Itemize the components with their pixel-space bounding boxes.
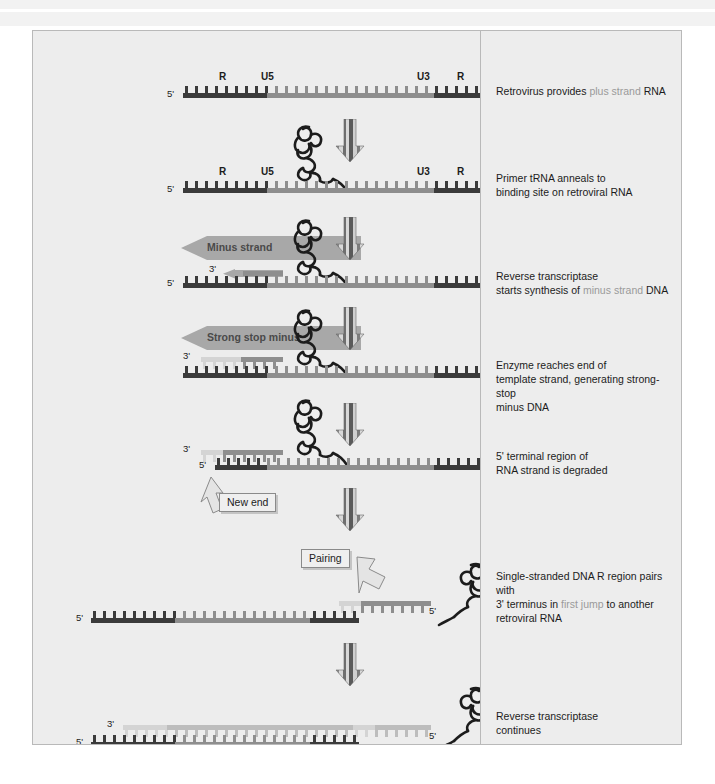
region-label-R-right-2: R	[457, 167, 464, 177]
caption-step6-line2-post: to another	[604, 598, 654, 610]
caption-step6-line3: retroviral RNA	[496, 611, 673, 625]
strand-ticks-row4	[183, 366, 480, 373]
caption-step6-highlight: first jump	[561, 598, 604, 610]
region-label-R-left-1: R	[219, 72, 226, 82]
caption-step4-line3: minus DNA	[496, 400, 673, 414]
caption-column: Retrovirus provides plus strand RNA Prim…	[480, 31, 681, 744]
caption-step1: Retrovirus provides plus strand RNA	[496, 84, 673, 98]
trna-icon-row7	[431, 683, 480, 744]
strand-ticks-row2	[183, 181, 480, 188]
caption-step7: Reverse transcriptase continues	[496, 709, 673, 737]
caption-step3-line2: starts synthesis of minus strand DNA	[496, 283, 673, 297]
five-prime-label-row2: 5'	[167, 184, 174, 194]
new-end-callout-label: New end	[219, 493, 276, 512]
caption-step3-line2-pre: starts synthesis of	[496, 284, 583, 296]
caption-step4-line1: Enzyme reaches end of	[496, 358, 673, 372]
caption-step6-line1: Single-stranded DNA R region pairs with	[496, 569, 673, 597]
caption-step1-highlight: plus strand	[589, 85, 640, 97]
caption-step2: Primer tRNA anneals to binding site on r…	[496, 171, 673, 199]
caption-step6-line2: 3' terminus in first jump to another	[496, 597, 673, 611]
caption-step1-post: RNA	[641, 85, 666, 97]
strand-rna-row1	[183, 93, 480, 98]
scan-artifact-top	[0, 0, 715, 9]
diagram-area: R U5 U3 R 5' 3'	[33, 31, 480, 744]
five-prime-label-row7b: 5'	[76, 737, 83, 744]
three-prime-label-strongstop-row4: 3'	[183, 351, 190, 361]
strand-rna-row4	[183, 373, 480, 378]
caption-step5-line1: 5' terminal region of	[496, 449, 673, 463]
strand-ticks-row1	[183, 86, 480, 93]
minus-strand-banner-label: Minus strand	[207, 241, 272, 253]
strand-rna-row7	[91, 742, 359, 744]
caption-step6-line2-pre: 3' terminus in	[496, 598, 561, 610]
scan-artifact-second	[0, 12, 715, 26]
caption-step2-line1: Primer tRNA anneals to	[496, 171, 673, 185]
strand-ticks-row7	[91, 735, 359, 742]
caption-step7-line1: Reverse transcriptase	[496, 709, 673, 723]
process-arrow-4	[335, 403, 365, 447]
caption-step7-line2: continues	[496, 723, 673, 737]
five-prime-label-row1: 5'	[167, 89, 174, 99]
region-label-U5-2: U5	[261, 167, 274, 177]
strand-rna-row3	[183, 283, 480, 288]
three-prime-label-row7: 3'	[107, 719, 114, 729]
process-arrow-2	[335, 217, 365, 261]
process-arrow-5	[335, 488, 365, 532]
region-label-R-left-2: R	[219, 167, 226, 177]
strand-rna-row2	[183, 188, 480, 193]
strand-dna-strongstop-row6	[339, 601, 431, 606]
region-label-R-right-1: R	[457, 72, 464, 82]
strand-ticks-row5	[215, 458, 480, 465]
five-prime-label-row6: 5'	[76, 613, 83, 623]
pairing-callout-label: Pairing	[301, 549, 350, 568]
caption-step4: Enzyme reaches end of template strand, g…	[496, 358, 673, 414]
caption-step3-line2-post: DNA	[643, 284, 668, 296]
caption-step3-line1: Reverse transcriptase	[496, 269, 673, 283]
strand-rna-new-row6	[91, 618, 359, 623]
region-label-U5-1: U5	[261, 72, 274, 82]
caption-step2-line2: binding site on retroviral RNA	[496, 185, 673, 199]
strand-dna-strongstop-row4	[201, 357, 283, 362]
strand-dna-strongstop-row5	[201, 450, 283, 455]
caption-step5-line2: RNA strand is degraded	[496, 463, 673, 477]
process-arrow-3	[335, 307, 365, 351]
strand-ticks-row3	[183, 276, 480, 283]
five-prime-label-row5: 5'	[199, 460, 206, 470]
strand-rna-row5	[215, 465, 480, 470]
caption-step6: Single-stranded DNA R region pairs with …	[496, 569, 673, 625]
caption-step3: Reverse transcriptase starts synthesis o…	[496, 269, 673, 297]
caption-step1-pre: Retrovirus provides	[496, 85, 589, 97]
caption-step5: 5' terminal region of RNA strand is degr…	[496, 449, 673, 477]
three-prime-label-strongstop-row5: 3'	[183, 444, 190, 454]
strand-dna-minus-row7	[123, 725, 431, 730]
region-label-U3-1: U3	[417, 72, 430, 82]
three-prime-label-nascent-row3: 3'	[209, 264, 216, 274]
trna-icon-row6	[431, 559, 480, 635]
region-label-U3-2: U3	[417, 167, 430, 177]
five-prime-label-row3: 5'	[167, 278, 174, 288]
strand-ticks-row6	[91, 611, 359, 618]
caption-step3-highlight: minus strand	[583, 284, 643, 296]
process-arrow-6	[335, 643, 365, 687]
caption-step4-line2: template strand, generating strong-stop	[496, 372, 673, 400]
figure-panel: R U5 U3 R 5' 3'	[32, 30, 682, 745]
